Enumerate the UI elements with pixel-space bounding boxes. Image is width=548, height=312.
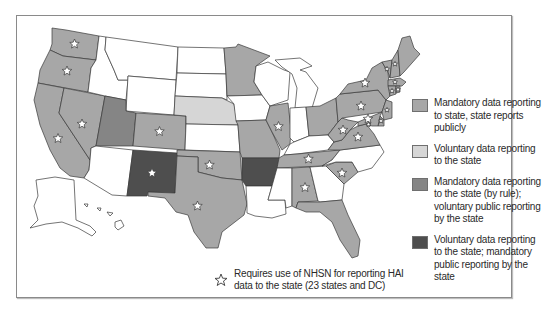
star-icon — [214, 273, 228, 287]
state-IN[interactable] — [290, 107, 309, 142]
legend-swatch — [412, 99, 428, 112]
legend-swatch — [412, 145, 428, 158]
state-ME[interactable] — [398, 36, 420, 76]
legend-item-voluntary-mandatory-public: Voluntary data reporting to the state; m… — [412, 234, 544, 284]
legend-swatch — [412, 178, 428, 191]
legend-swatch — [412, 236, 428, 249]
state-AZ[interactable] — [84, 146, 133, 196]
state-SD[interactable] — [175, 73, 227, 100]
legend-item-voluntary: Voluntary data reporting to the state — [412, 143, 544, 168]
nhsn-legend-line1: Requires use of NHSN for reporting HAI — [234, 268, 404, 280]
legend: Mandatory data reporting to state, state… — [412, 97, 544, 292]
state-MT[interactable] — [105, 37, 178, 80]
legend-label: Mandatory data reporting to state, state… — [434, 97, 544, 135]
state-KS[interactable] — [185, 124, 240, 152]
nhsn-legend-line2: data to the state (23 states and DC) — [234, 280, 404, 292]
state-FL[interactable] — [296, 200, 360, 258]
legend-label: Mandatory data reporting to the state (b… — [434, 176, 544, 226]
state-ND[interactable] — [177, 47, 226, 74]
legend-item-mandatory-rule: Mandatory data reporting to the state (b… — [412, 176, 544, 226]
legend-label: Voluntary data reporting to the state — [434, 143, 544, 168]
legend-item-mandatory-public: Mandatory data reporting to state, state… — [412, 97, 544, 135]
nhsn-legend: Requires use of NHSN for reporting HAI d… — [214, 268, 404, 292]
legend-label: Voluntary data reporting to the state; m… — [434, 234, 544, 284]
state-WY[interactable] — [126, 76, 176, 115]
